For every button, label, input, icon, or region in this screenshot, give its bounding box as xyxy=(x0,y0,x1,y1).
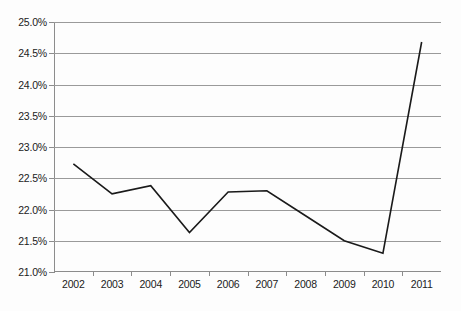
x-axis-tick xyxy=(286,272,287,276)
x-axis-tick-label: 2007 xyxy=(256,278,279,290)
y-axis-tick xyxy=(49,272,54,273)
line-chart: 21.0%21.5%22.0%22.5%23.0%23.5%24.0%24.5%… xyxy=(0,0,461,311)
y-axis-tick-label: 23.5% xyxy=(0,110,47,122)
x-axis-tick-label: 2010 xyxy=(372,278,395,290)
x-axis-tick-label: 2004 xyxy=(139,278,162,290)
x-axis-tick xyxy=(170,272,171,276)
x-axis-tick-label: 2009 xyxy=(333,278,356,290)
x-axis-tick-label: 2011 xyxy=(411,278,433,290)
x-axis-tick-label: 2008 xyxy=(294,278,317,290)
y-axis-tick-label: 25.0% xyxy=(0,16,47,28)
x-axis-tick xyxy=(209,272,210,276)
plot-area xyxy=(54,22,441,272)
series-line xyxy=(54,22,441,272)
y-axis-tick-label: 22.5% xyxy=(0,172,47,184)
x-axis-tick xyxy=(325,272,326,276)
y-axis-tick-label: 23.0% xyxy=(0,141,47,153)
x-axis-tick-label: 2006 xyxy=(217,278,240,290)
series-polyline xyxy=(73,42,421,253)
y-axis-tick-labels: 21.0%21.5%22.0%22.5%23.0%23.5%24.0%24.5%… xyxy=(0,22,49,272)
y-axis-tick-label: 24.0% xyxy=(0,79,47,91)
x-axis-tick xyxy=(131,272,132,276)
x-axis-tick-labels: 2002200320042005200620072008200920102011 xyxy=(54,278,441,296)
x-axis-tick xyxy=(93,272,94,276)
y-axis-tick-label: 24.5% xyxy=(0,47,47,59)
y-axis-tick-label: 21.0% xyxy=(0,266,47,278)
x-axis-tick xyxy=(248,272,249,276)
y-axis-tick-label: 21.5% xyxy=(0,235,47,247)
x-axis-tick-label: 2003 xyxy=(101,278,124,290)
x-axis-tick xyxy=(402,272,403,276)
x-axis-tick-label: 2002 xyxy=(62,278,85,290)
x-axis-tick-label: 2005 xyxy=(178,278,201,290)
y-axis-tick-label: 22.0% xyxy=(0,204,47,216)
x-axis-tick xyxy=(364,272,365,276)
